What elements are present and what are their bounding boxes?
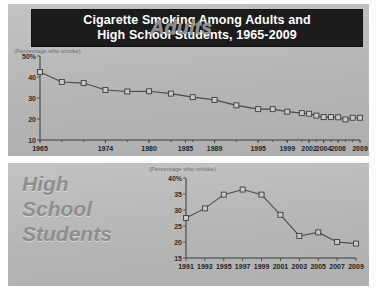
- high-school-students-x-tick-label: 1991: [178, 263, 194, 270]
- high-school-students-x-tick-label: 2009: [348, 263, 364, 270]
- high-school-students-x-tick-label: 2005: [310, 263, 326, 270]
- adults-x-tick-label: 1999: [279, 145, 295, 152]
- adults-y-tick-label: 20: [14, 116, 36, 123]
- high-school-students-y-tick-label: 35: [160, 191, 182, 198]
- high-school-students-x-tick-label: 1993: [197, 263, 213, 270]
- adults-x-tick-label: 1974: [98, 145, 114, 152]
- high-school-students-y-tick-label: 30: [160, 207, 182, 214]
- adults-x-tick-label: 2002: [301, 145, 317, 152]
- high-school-line-chart: 152025303540% 19911993199519971999200120…: [8, 163, 369, 286]
- high-school-students-x-tick-label: 2007: [329, 263, 345, 270]
- adults-x-tick-label: 1995: [250, 145, 266, 152]
- high-school-students-y-tick-label: 40%: [160, 175, 182, 182]
- high-school-students-x-tick-label: 1995: [216, 263, 232, 270]
- adults-y-tick-label: 50%: [14, 53, 36, 60]
- high-school-panel: (Percentage who smoke) High School Stude…: [8, 163, 369, 286]
- high-school-students-y-tick-label: 20: [160, 239, 182, 246]
- adults-x-tick-label: 2006: [330, 145, 346, 152]
- high-school-students-x-tick-label: 1999: [254, 263, 270, 270]
- high-school-students-x-tick-label: 2003: [292, 263, 308, 270]
- adults-x-tick-label: 2009: [352, 145, 368, 152]
- adults-x-tick-label: 1965: [32, 145, 48, 152]
- adults-panel: Cigarette Smoking Among Adults and High …: [8, 4, 369, 156]
- adults-line-chart: 1020304050% 1965197419801985198919951999…: [8, 4, 369, 156]
- adults-y-tick-label: 10: [14, 137, 36, 144]
- adults-y-tick-label: 40: [14, 74, 36, 81]
- adults-x-tick-label: 2004: [316, 145, 332, 152]
- adults-x-tick-label: 1989: [207, 145, 223, 152]
- adults-x-tick-label: 1980: [141, 145, 157, 152]
- high-school-students-y-tick-label: 25: [160, 223, 182, 230]
- adults-y-tick-label: 30: [14, 95, 36, 102]
- high-school-students-x-tick-label: 1997: [235, 263, 251, 270]
- high-school-students-x-tick-label: 2001: [273, 263, 289, 270]
- high-school-students-y-tick-label: 15: [160, 255, 182, 262]
- adults-x-tick-label: 1985: [178, 145, 194, 152]
- infographic-root: Cigarette Smoking Among Adults and High …: [0, 0, 377, 290]
- adults-chart-svg: [8, 4, 369, 156]
